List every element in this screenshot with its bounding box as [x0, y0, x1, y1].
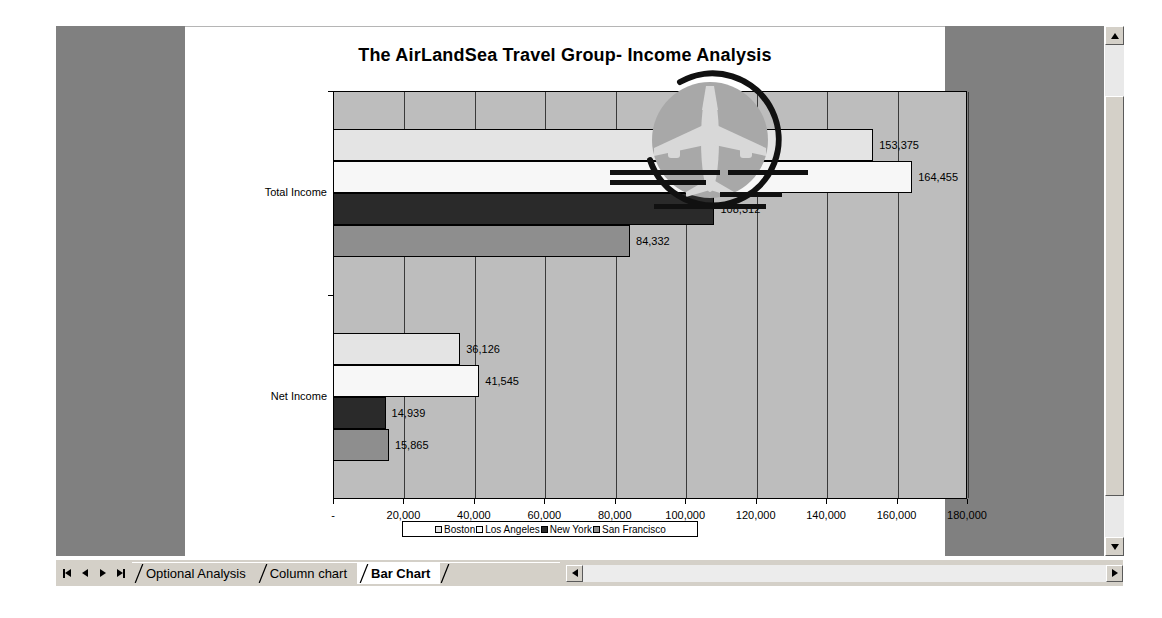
bar[interactable]: [333, 193, 714, 225]
sheet-tab-filler: [440, 562, 560, 584]
bar-data-label: 15,865: [395, 439, 429, 451]
x-tick-mark: [897, 499, 898, 504]
previous-sheet-icon: [82, 569, 88, 577]
sheet-tab-label: Column chart: [270, 566, 347, 581]
bars-layer: 153,375164,455108,31284,33236,12641,5451…: [333, 91, 967, 499]
sheet-nav-buttons: [56, 564, 130, 582]
x-tick-label: 80,000: [598, 509, 632, 521]
legend-item[interactable]: Boston: [434, 524, 475, 535]
next-sheet-icon: [100, 569, 106, 577]
legend-label: Los Angeles: [485, 524, 540, 535]
tab-divider-icon: [440, 564, 450, 583]
category-tick-mark: [328, 295, 333, 296]
legend-item[interactable]: New York: [540, 524, 592, 535]
x-tick-mark: [685, 499, 686, 504]
x-tick-mark: [756, 499, 757, 504]
gridline: [968, 92, 969, 498]
legend-label: San Francisco: [602, 524, 666, 535]
legend-swatch: [541, 526, 548, 533]
chevron-up-icon: [1111, 33, 1119, 39]
previous-sheet-button[interactable]: [76, 564, 94, 582]
first-sheet-button[interactable]: [58, 564, 76, 582]
legend-swatch: [435, 526, 442, 533]
bar-data-label: 36,126: [466, 343, 500, 355]
vertical-scrollbar-thumb[interactable]: [1105, 96, 1124, 496]
scroll-right-button[interactable]: [1106, 565, 1123, 582]
chart-title: The AirLandSea Travel Group- Income Anal…: [185, 45, 945, 66]
x-tick-mark: [474, 499, 475, 504]
chevron-down-icon: [1111, 544, 1119, 550]
legend-label: New York: [550, 524, 592, 535]
horizontal-scrollbar-track[interactable]: [583, 565, 1106, 582]
first-sheet-icon: [65, 569, 71, 577]
sheet-tab-label: Optional Analysis: [146, 566, 246, 581]
chart-sheet[interactable]: The AirLandSea Travel Group- Income Anal…: [185, 26, 945, 557]
x-tick-label: 20,000: [387, 509, 421, 521]
scroll-up-button[interactable]: [1105, 26, 1124, 45]
legend-label: Boston: [444, 524, 475, 535]
bar-data-label: 153,375: [879, 139, 919, 151]
x-tick-label: -: [331, 509, 335, 521]
sheet-tab[interactable]: Column chart: [256, 562, 357, 584]
x-tick-label: 60,000: [528, 509, 562, 521]
bar[interactable]: [333, 333, 460, 365]
bar[interactable]: [333, 129, 873, 161]
bar-data-label: 14,939: [392, 407, 426, 419]
x-tick-label: 140,000: [806, 509, 846, 521]
category-tick-mark: [328, 91, 333, 92]
x-tick-label: 160,000: [877, 509, 917, 521]
legend-swatch: [476, 526, 483, 533]
chevron-right-icon: [1112, 569, 1118, 577]
x-tick-label: 100,000: [665, 509, 705, 521]
bar-data-label: 164,455: [918, 171, 958, 183]
bar[interactable]: [333, 429, 389, 461]
x-tick-mark: [615, 499, 616, 504]
bar[interactable]: [333, 225, 630, 257]
legend-item[interactable]: Los Angeles: [475, 524, 540, 535]
bar[interactable]: [333, 161, 912, 193]
x-tick-mark: [403, 499, 404, 504]
sheet-tab[interactable]: Optional Analysis: [132, 562, 256, 584]
chart-legend[interactable]: BostonLos AngelesNew YorkSan Francisco: [402, 521, 698, 537]
vertical-scrollbar[interactable]: [1104, 26, 1124, 556]
bar-data-label: 84,332: [636, 235, 670, 247]
plot-wrapper: 153,375164,455108,31284,33236,12641,5451…: [333, 91, 967, 499]
tab-divider-icon: [359, 564, 369, 583]
scroll-down-button[interactable]: [1105, 537, 1124, 556]
chevron-left-icon: [572, 569, 578, 577]
bar-data-label: 41,545: [485, 375, 519, 387]
category-label: Net Income: [241, 390, 327, 402]
sheet-tab[interactable]: Bar Chart: [357, 562, 440, 584]
last-sheet-button[interactable]: [112, 564, 130, 582]
bar[interactable]: [333, 397, 386, 429]
x-tick-label: 40,000: [457, 509, 491, 521]
bar-glyph: [123, 569, 125, 578]
x-tick-label: 120,000: [736, 509, 776, 521]
x-tick-mark: [333, 499, 334, 504]
bar-data-label: 108,312: [720, 203, 760, 215]
legend-item[interactable]: San Francisco: [592, 524, 666, 535]
horizontal-scrollbar[interactable]: [566, 565, 1123, 582]
workbook-canvas: The AirLandSea Travel Group- Income Anal…: [56, 26, 1104, 556]
tab-divider-icon: [134, 564, 144, 583]
x-tick-mark: [826, 499, 827, 504]
sheet-tab-bar: Optional AnalysisColumn chartBar Chart: [56, 560, 1123, 586]
scroll-left-button[interactable]: [566, 565, 583, 582]
category-label: Total Income: [241, 186, 327, 198]
sheet-tabs: Optional AnalysisColumn chartBar Chart: [132, 562, 440, 584]
x-tick-mark: [544, 499, 545, 504]
excel-chart-sheet-window: The AirLandSea Travel Group- Income Anal…: [0, 0, 1162, 618]
sheet-margin-left: [56, 26, 185, 556]
next-sheet-button[interactable]: [94, 564, 112, 582]
sheet-tab-label: Bar Chart: [371, 566, 430, 581]
tab-divider-icon: [258, 564, 268, 583]
x-tick-mark: [967, 499, 968, 504]
legend-swatch: [593, 526, 600, 533]
bar[interactable]: [333, 365, 479, 397]
x-tick-label: 180,000: [947, 509, 987, 521]
